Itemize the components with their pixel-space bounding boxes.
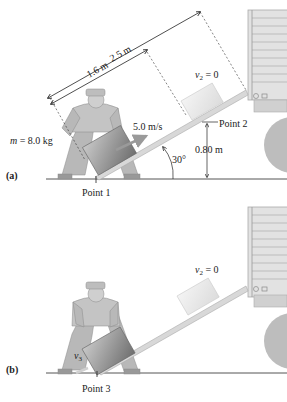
point1-label: Point 1 — [82, 187, 111, 198]
panel-a: 2.5 m 1.6 m (a) m = 8.0 kg 5.0 m/s Point… — [6, 10, 287, 198]
dim-short-label: 1.6 m — [85, 59, 110, 80]
height-label: 0.80 m — [195, 144, 223, 155]
truck-b — [248, 207, 287, 369]
dim-long-label: 2.5 m — [108, 43, 133, 64]
speed-label: 5.0 m/s — [133, 121, 163, 132]
physics-diagram: 2.5 m 1.6 m (a) m = 8.0 kg 5.0 m/s Point… — [0, 0, 287, 402]
angle-label: 30° — [172, 154, 186, 165]
truck-wheel — [264, 117, 287, 173]
panel-a-label: (a) — [6, 170, 18, 182]
truck — [248, 10, 287, 173]
point2-label: Point 2 — [219, 118, 248, 129]
point3-label: Point 3 — [82, 383, 111, 394]
box-point2 — [181, 83, 223, 120]
mass-label: m = 8.0 kg — [10, 135, 53, 146]
v2-label-a: v2 = 0 — [195, 69, 219, 82]
v2-label-b: v2 = 0 — [195, 264, 219, 277]
panel-b-label: (b) — [6, 364, 18, 376]
panel-b: (b) Point 3 v2 = 0 v3 — [6, 207, 287, 394]
truck-wheel-b — [264, 313, 287, 369]
